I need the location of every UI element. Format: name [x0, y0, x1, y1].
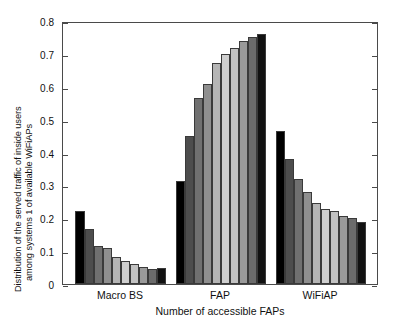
y-tick-label: 0.2: [0, 214, 54, 225]
bar: [85, 229, 94, 284]
y-tick-label: 0.5: [0, 115, 54, 126]
bar: [221, 54, 230, 284]
bar-group-fap: [176, 23, 267, 284]
bar: [303, 192, 312, 284]
bar: [321, 209, 330, 284]
y-tick-label: 0: [0, 280, 54, 291]
bar: [330, 211, 339, 284]
y-tick-label: 0.6: [0, 82, 54, 93]
bar: [148, 269, 157, 284]
y-tick-label: 0.8: [0, 17, 54, 28]
bar: [294, 179, 303, 284]
bar: [357, 222, 366, 284]
bar: [157, 268, 166, 284]
bar: [194, 98, 203, 284]
bar-groups: [63, 23, 377, 284]
bar: [112, 257, 121, 284]
bar: [212, 63, 221, 284]
bar-chart-figure: Distribution of the served traffic of in…: [0, 0, 405, 330]
bar: [139, 267, 148, 284]
bar: [176, 181, 185, 284]
plot-area: [62, 22, 378, 285]
x-group-label: WiFiAP: [303, 289, 338, 301]
y-tick-label: 0.4: [0, 148, 54, 159]
y-tick-label: 0.7: [0, 49, 54, 60]
bar: [257, 34, 266, 284]
bar: [276, 131, 285, 284]
x-axis-title: Number of accessible FAPs: [156, 305, 285, 317]
y-tick-label: 0.1: [0, 247, 54, 258]
x-group-label: Macro BS: [97, 289, 143, 301]
y-axis-tick-labels: 00.10.20.30.40.50.60.70.8: [0, 0, 62, 330]
y-tick-mark-right: [372, 286, 377, 287]
bar-group-macro-bs: [75, 23, 166, 284]
bar: [239, 41, 248, 284]
bar: [285, 159, 294, 284]
bar: [203, 84, 212, 284]
bar: [121, 261, 130, 284]
y-tick-label: 0.3: [0, 181, 54, 192]
x-group-label: FAP: [210, 289, 230, 301]
bar: [130, 264, 139, 284]
bar: [75, 211, 84, 284]
bar: [348, 218, 357, 284]
bar: [103, 248, 112, 284]
bar: [339, 216, 348, 284]
y-tick-mark: [63, 286, 68, 287]
bar-group-wifiap: [276, 23, 367, 284]
bar: [248, 37, 257, 284]
bar: [185, 136, 194, 284]
bar: [312, 203, 321, 284]
bar: [94, 246, 103, 284]
bar: [230, 48, 239, 284]
